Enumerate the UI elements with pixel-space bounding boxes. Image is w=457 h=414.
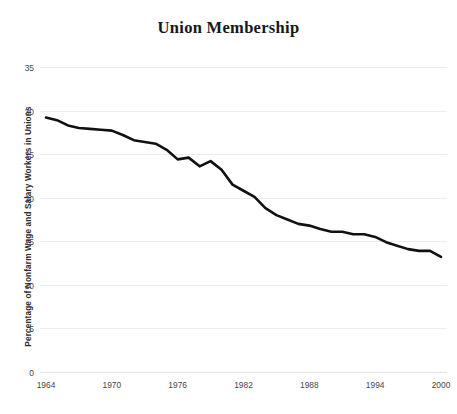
x-tick-label: 1988 [300, 380, 319, 390]
x-tick-label: 1976 [168, 380, 187, 390]
gridlines [40, 68, 447, 373]
y-tick-label: 0 [29, 368, 34, 378]
x-tick-label: 1982 [234, 380, 253, 390]
y-tick-label: 25 [25, 150, 35, 160]
y-tick-label: 5 [29, 324, 34, 334]
x-tick-label: 2000 [432, 380, 451, 390]
plot-area: 05101520253035 1964197019761982198819942… [0, 0, 457, 414]
y-tick-label: 30 [25, 107, 35, 117]
y-tick-labels: 05101520253035 [25, 63, 35, 378]
series-line [46, 118, 441, 257]
x-tick-label: 1994 [366, 380, 385, 390]
data-series [46, 118, 441, 257]
y-tick-label: 15 [25, 237, 35, 247]
x-tick-label: 1964 [37, 380, 56, 390]
y-tick-label: 20 [25, 194, 35, 204]
y-tick-label: 10 [25, 281, 35, 291]
x-tick-labels: 1964197019761982198819942000 [37, 380, 451, 390]
y-tick-label: 35 [25, 63, 35, 73]
union-membership-chart: Union Membership Percentage of Nonfarm W… [0, 0, 457, 414]
x-tick-label: 1970 [103, 380, 122, 390]
